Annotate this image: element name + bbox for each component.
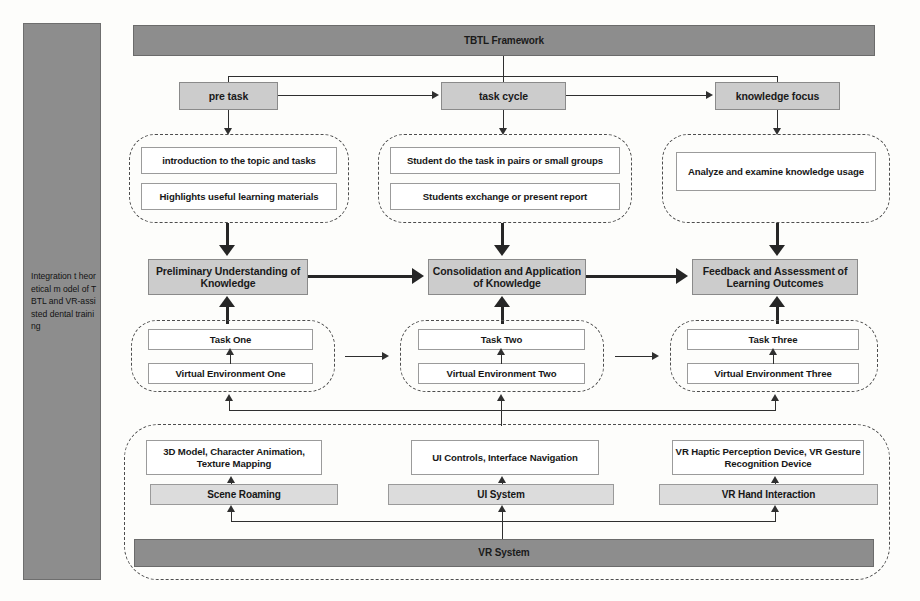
task-seq-2-line (615, 356, 653, 357)
outcome-preliminary-understanding[interactable]: Preliminary Understanding of Knowledge (148, 259, 308, 295)
vr-capability-hand-interaction-label: VR Haptic Perception Device, VR Gesture … (673, 446, 863, 469)
virtual-environment-three-box[interactable]: Virtual Environment Three (687, 363, 859, 384)
phase-pre-task[interactable]: pre task (179, 82, 278, 110)
task-seq-1-arrow (382, 352, 389, 360)
ui-system-up-arrow (498, 476, 506, 483)
outcome-link-2-line (586, 275, 677, 278)
outcome-feedback-assessment[interactable]: Feedback and Assessment of Learning Outc… (692, 259, 858, 295)
phase-link-1-arrow (432, 91, 439, 99)
vr-module-hand-interaction[interactable]: VR Hand Interaction (659, 484, 878, 505)
vr-capability-ui-system[interactable]: UI Controls, Interface Navigation (411, 440, 599, 475)
task-two-label: Task Two (481, 334, 523, 345)
outcome-feedback-assessment-label: Feedback and Assessment of Learning Outc… (693, 265, 857, 290)
vrsystem-arrow-right (771, 505, 779, 512)
vr-module-scene-roaming-label: Scene Roaming (207, 489, 281, 501)
vrsystem-riser-left (231, 511, 232, 522)
activity-exchange-report[interactable]: Students exchange or present report (390, 183, 620, 210)
activity-highlight-materials-label: Highlights useful learning materials (160, 191, 319, 202)
phase-task-cycle-label: task cycle (479, 90, 528, 102)
outcome-link-1-line (308, 275, 413, 278)
outcome-link-2-arrow (676, 268, 688, 284)
vrsystem-bus-line (231, 521, 776, 522)
vr-capability-ui-system-label: UI Controls, Interface Navigation (432, 452, 577, 463)
phase-link-2-line (566, 95, 707, 96)
vr-to-task-riser-left (229, 400, 230, 411)
side-label-text: Integration t heoretical m odel of TBTL … (24, 270, 100, 332)
task-three-box[interactable]: Task Three (687, 329, 859, 350)
ve-three-link-arrow (769, 348, 777, 355)
task-three-label: Task Three (749, 334, 798, 345)
vr-module-scene-roaming[interactable]: Scene Roaming (150, 484, 338, 505)
virtual-environment-one-box[interactable]: Virtual Environment One (148, 363, 313, 384)
vrsystem-arrow-center (498, 505, 506, 512)
vr-module-ui-system[interactable]: UI System (388, 484, 614, 505)
vr-system-band: VR System (134, 539, 874, 567)
hand-interaction-up-arrow (771, 476, 779, 483)
phase-link-2-arrow (706, 91, 713, 99)
activity-highlight-materials[interactable]: Highlights useful learning materials (141, 183, 337, 210)
activity-task-pairs-groups[interactable]: Student do the task in pairs or small gr… (390, 147, 620, 174)
vr-to-task-riser-right (775, 400, 776, 411)
vr-to-task-arrow-center (497, 394, 505, 401)
tasktwo-up-arrow (494, 296, 510, 307)
diagram-canvas: Integration t heoretical m odel of TBTL … (0, 0, 920, 601)
virtual-environment-one-label: Virtual Environment One (175, 368, 285, 379)
activity-intro-topic-tasks[interactable]: introduction to the topic and tasks (141, 147, 337, 174)
task-two-box[interactable]: Task Two (418, 329, 585, 350)
virtual-environment-three-label: Virtual Environment Three (714, 368, 831, 379)
side-label-panel: Integration t heoretical m odel of TBTL … (23, 23, 101, 580)
vrsystem-riser-right (775, 511, 776, 522)
taskone-up-arrow (219, 296, 235, 307)
vr-system-title: VR System (478, 547, 529, 559)
outcome-consolidation-application-label: Consolidation and Application of Knowled… (429, 265, 585, 290)
knowledgefocus-outcome-arrow (769, 245, 785, 256)
outcome-consolidation-application[interactable]: Consolidation and Application of Knowled… (428, 259, 586, 295)
vr-capability-scene-roaming-label: 3D Model, Character Animation, Texture M… (147, 446, 321, 469)
vr-to-task-arrow-left (225, 394, 233, 401)
outcome-link-1-arrow (412, 268, 424, 284)
task-seq-2-arrow (652, 352, 659, 360)
task-one-label: Task One (210, 334, 252, 345)
framework-trunk-line (503, 56, 504, 78)
phase-knowledge-focus[interactable]: knowledge focus (715, 82, 840, 110)
vrsystem-arrow-left (227, 505, 235, 512)
pretask-outcome-arrow (219, 245, 235, 256)
tbtl-framework-title: TBTL Framework (464, 35, 544, 47)
taskthree-up-arrow (769, 296, 785, 307)
tbtl-framework-band: TBTL Framework (133, 25, 875, 56)
scene-roaming-up-arrow (227, 476, 235, 483)
task-seq-1-line (345, 356, 383, 357)
activity-intro-topic-tasks-label: introduction to the topic and tasks (162, 155, 316, 166)
vr-to-task-arrow-right (771, 394, 779, 401)
outcome-preliminary-understanding-label: Preliminary Understanding of Knowledge (149, 265, 307, 290)
ve-two-link-arrow (497, 348, 505, 355)
ve-one-link-arrow (226, 348, 234, 355)
phase-link-1-line (278, 95, 433, 96)
vrsystem-stem (502, 521, 503, 539)
activity-analyze-knowledge-usage[interactable]: Analyze and examine knowledge usage (676, 152, 876, 191)
activity-task-pairs-groups-label: Student do the task in pairs or small gr… (407, 155, 603, 166)
phase-pre-task-label: pre task (209, 90, 248, 102)
vr-module-ui-system-label: UI System (477, 489, 524, 501)
activity-analyze-knowledge-usage-label: Analyze and examine knowledge usage (688, 166, 864, 177)
vr-capability-hand-interaction[interactable]: VR Haptic Perception Device, VR Gesture … (672, 440, 864, 475)
task-one-box[interactable]: Task One (148, 329, 313, 350)
vr-to-task-bus-line (229, 410, 776, 411)
phase-task-cycle[interactable]: task cycle (441, 82, 566, 110)
virtual-environment-two-label: Virtual Environment Two (447, 368, 557, 379)
phase-knowledge-focus-label: knowledge focus (736, 90, 820, 102)
vr-capability-scene-roaming[interactable]: 3D Model, Character Animation, Texture M… (146, 440, 322, 475)
taskcycle-outcome-arrow (494, 245, 510, 256)
activity-exchange-report-label: Students exchange or present report (423, 191, 587, 202)
virtual-environment-two-box[interactable]: Virtual Environment Two (418, 363, 585, 384)
vr-module-hand-interaction-label: VR Hand Interaction (722, 489, 816, 501)
